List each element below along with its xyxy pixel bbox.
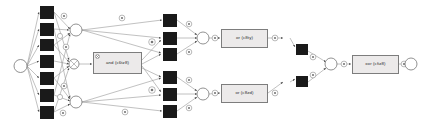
transition-node[interactable] xyxy=(296,44,308,55)
transition-node[interactable] xyxy=(40,72,54,85)
source-place[interactable] xyxy=(14,60,27,73)
join-place[interactable] xyxy=(197,32,209,44)
sink-place[interactable] xyxy=(405,58,417,70)
or-box-top[interactable]: or (c8ty) xyxy=(221,29,268,48)
or-box-top-label: or (c8ty) xyxy=(236,36,253,40)
join-place[interactable] xyxy=(70,96,82,108)
transition-node[interactable] xyxy=(296,76,308,87)
join-place[interactable] xyxy=(197,88,209,100)
transition-node[interactable] xyxy=(40,23,54,36)
transition-node[interactable] xyxy=(163,48,177,61)
transition-node[interactable] xyxy=(163,32,177,45)
or-box-bottom-label: or (c8zd) xyxy=(235,91,253,95)
merge-place[interactable] xyxy=(325,58,337,70)
transition-node[interactable] xyxy=(163,14,177,27)
join-place[interactable] xyxy=(70,24,82,36)
transition-node[interactable] xyxy=(40,89,54,102)
transition-node[interactable] xyxy=(40,6,54,19)
transition-node[interactable] xyxy=(40,106,54,119)
and-box-label: and (c6tz8) xyxy=(106,61,129,65)
or-box-bottom[interactable]: or (c8zd) xyxy=(221,84,268,103)
transition-node[interactable] xyxy=(163,71,177,84)
xor-box[interactable]: xor (cfiz8) xyxy=(352,55,399,74)
and-box[interactable]: and (c6tz8) xyxy=(93,52,142,74)
transition-node[interactable] xyxy=(40,55,54,68)
transition-node[interactable] xyxy=(40,39,54,51)
transition-node[interactable] xyxy=(163,88,177,101)
process-diagram-canvas: and (c6tz8) or (c8ty) or (c8zd) xor (cfi… xyxy=(0,0,428,129)
xor-box-label: xor (cfiz8) xyxy=(365,62,385,66)
edge-group xyxy=(27,12,405,112)
and-gate-icon xyxy=(95,54,100,59)
transition-node[interactable] xyxy=(163,105,177,118)
